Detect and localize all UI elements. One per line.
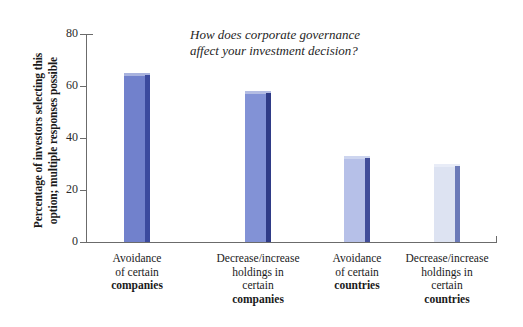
bar — [434, 164, 460, 242]
category-label-emphasis: countries — [387, 293, 507, 307]
y-axis-line — [86, 34, 87, 243]
x-axis-category-label: Avoidanceof certaincompanies — [77, 252, 197, 293]
bar-side-face — [455, 166, 460, 242]
bar — [344, 156, 370, 242]
bar-front-face — [124, 76, 145, 242]
category-label-line: of certain — [77, 266, 197, 280]
bar-chart: Percentage of investors selecting this o… — [0, 0, 523, 327]
category-label-line: Avoidance — [77, 252, 197, 266]
y-axis-tick — [80, 34, 86, 35]
y-axis-tick-label: 80 — [52, 26, 78, 41]
bar-side-face — [145, 75, 150, 242]
x-axis-right-cap — [496, 236, 497, 243]
category-label-line: Decrease/increase — [387, 252, 507, 266]
x-axis-category-label: Decrease/increaseholdings incertaincount… — [387, 252, 507, 306]
y-axis-tick-label: 60 — [52, 78, 78, 93]
bar — [245, 91, 271, 242]
category-label-line: holdings in — [387, 266, 507, 280]
category-label-line: certain — [387, 279, 507, 293]
chart-title: How does corporate governance affect you… — [190, 27, 420, 59]
y-axis-tick-label: 0 — [52, 234, 78, 249]
bar — [124, 73, 150, 242]
y-axis-tick — [80, 190, 86, 191]
chart-title-line2: affect your investment decision? — [190, 43, 420, 59]
x-axis-line — [86, 242, 497, 243]
chart-title-line1: How does corporate governance — [190, 27, 420, 43]
category-label-emphasis: companies — [198, 293, 318, 307]
category-label-emphasis: companies — [77, 279, 197, 293]
y-axis-label-line1: Percentage of investors selecting this — [31, 16, 46, 266]
bar-front-face — [245, 94, 266, 242]
y-axis-tick — [80, 86, 86, 87]
bar-side-face — [266, 93, 271, 242]
y-axis-tick — [80, 242, 86, 243]
bar-front-face — [344, 159, 365, 242]
bar-front-face — [434, 167, 455, 242]
y-axis-tick-label: 20 — [52, 182, 78, 197]
y-axis-tick — [80, 138, 86, 139]
y-axis-top-cap — [86, 34, 93, 35]
bar-side-face — [365, 158, 370, 242]
y-axis-tick-label: 40 — [52, 130, 78, 145]
